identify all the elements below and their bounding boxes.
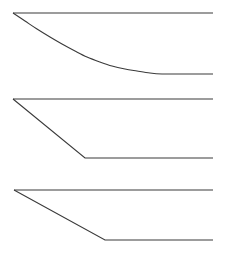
figure-background: [0, 0, 233, 260]
figure-svg: [0, 0, 233, 260]
figure-canvas: [0, 0, 233, 260]
